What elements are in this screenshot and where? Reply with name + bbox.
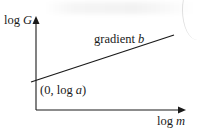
- y-axis-arrow-icon: [33, 16, 40, 24]
- x-axis-label: log m: [157, 115, 185, 128]
- gradient-label: gradient b: [94, 33, 144, 46]
- intercept-label: (0, log a): [40, 84, 86, 97]
- y-axis-label: log G: [4, 14, 32, 27]
- x-axis-arrow-icon: [178, 107, 186, 114]
